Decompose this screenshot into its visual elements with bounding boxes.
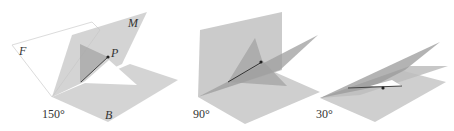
point [259, 60, 262, 63]
label-m: M [127, 16, 139, 30]
label-b: B [105, 108, 113, 122]
dihedral-angle-diagram: F M P B 150° 90° 30° [0, 0, 454, 131]
label-p: P [110, 46, 119, 60]
figure-90: 90° [193, 12, 320, 124]
label-f: F [18, 44, 27, 58]
point-p [106, 55, 109, 58]
angle-label-30: 30° [316, 107, 333, 121]
angle-label-150: 150° [42, 107, 65, 121]
figure-30: 30° [316, 42, 448, 122]
angle-label-90: 90° [193, 107, 210, 121]
point [381, 86, 384, 89]
figure-150: F M P B 150° [12, 12, 178, 122]
